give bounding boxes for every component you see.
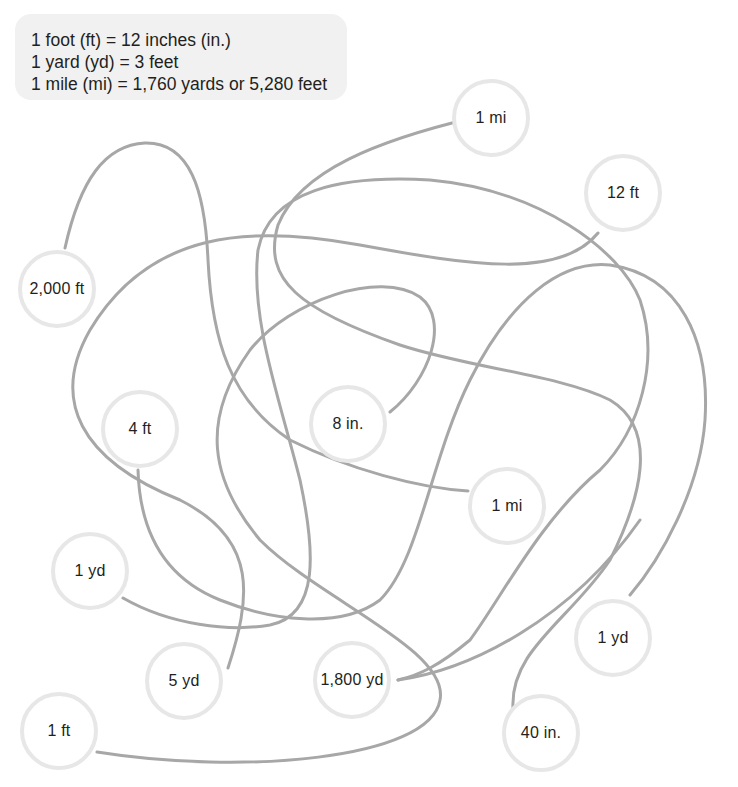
measurement-label: 1 ft [47,722,70,740]
measurement-circle[interactable]: 12 ft [584,154,662,232]
measurement-label: 40 in. [521,724,561,742]
measurement-label: 1 yd [74,562,105,580]
measurement-circle[interactable]: 1 yd [574,599,652,677]
measurement-label: 1,800 yd [321,671,384,689]
measurement-circle[interactable]: 2,000 ft [18,250,96,328]
measurement-circle[interactable]: 8 in. [309,385,387,463]
measurement-label: 2,000 ft [30,280,85,298]
measurement-label: 12 ft [607,184,639,202]
measurement-label: 1 mi [491,497,522,515]
measurement-label: 4 ft [128,420,151,438]
connector-path[interactable] [138,265,706,619]
measurement-circle[interactable]: 5 yd [145,642,223,720]
measurement-label: 1 mi [475,109,506,127]
measurement-label: 8 in. [332,415,363,433]
measurement-circle[interactable]: 1 yd [51,532,129,610]
measurement-label: 1 yd [597,629,628,647]
measurement-circle[interactable]: 40 in. [502,694,580,772]
measurement-circle[interactable]: 4 ft [101,390,179,468]
measurement-circle[interactable]: 1,800 yd [313,641,391,719]
measurement-circle[interactable]: 1 mi [452,79,530,157]
measurement-circle[interactable]: 1 mi [468,467,546,545]
measurement-label: 5 yd [168,672,199,690]
measurement-circle[interactable]: 1 ft [20,692,98,770]
